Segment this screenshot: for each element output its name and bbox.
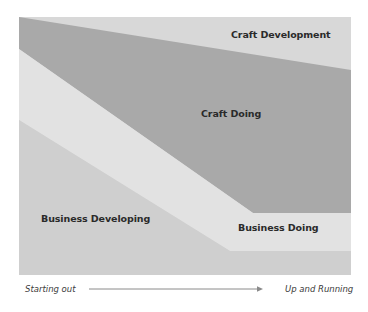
axis-end-label: Up and Running <box>285 284 354 294</box>
axis-start-label: Starting out <box>25 284 76 294</box>
label-business-developing: Business Developing <box>41 213 150 224</box>
label-business-doing: Business Doing <box>238 222 319 233</box>
label-craft-development: Craft Development <box>231 29 331 40</box>
journey-diagram: Craft Development Craft Doing Business D… <box>0 0 368 312</box>
label-craft-doing: Craft Doing <box>201 108 261 119</box>
arrow-right-icon <box>257 286 263 291</box>
